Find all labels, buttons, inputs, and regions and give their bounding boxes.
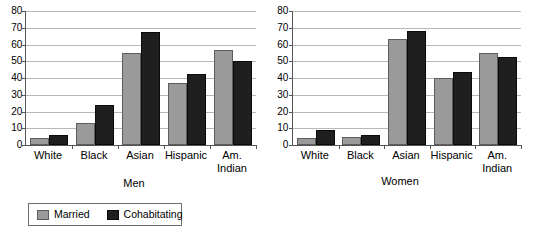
x-axis-label-asian: Asian (117, 149, 163, 162)
y-axis-tick-label: 50 (266, 56, 288, 66)
plot-area-men (25, 11, 256, 146)
x-axis-tick (256, 145, 257, 149)
x-axis-title-men: Men (0, 177, 268, 189)
y-axis-tick-label: 30 (0, 90, 22, 100)
y-axis-tick (22, 45, 26, 46)
bar-men-black-cohabitating (95, 105, 114, 145)
legend-entry-married: Married (37, 204, 90, 225)
plot-area-women (292, 11, 521, 146)
y-axis-tick (22, 28, 26, 29)
y-axis-labels-men: 01020304050607080 (0, 0, 22, 190)
y-axis-tick-label: 80 (0, 6, 22, 16)
bar-group (30, 11, 68, 145)
legend-swatch-married (37, 210, 49, 220)
y-axis-tick (289, 112, 293, 113)
y-axis-tick (22, 128, 26, 129)
bar-women-hispanic-cohabitating (453, 72, 472, 145)
bar-men-amindian-married (214, 50, 233, 145)
bar-group (122, 11, 160, 145)
y-axis-tick (289, 95, 293, 96)
bar-group (168, 11, 206, 145)
y-axis-tick (289, 61, 293, 62)
y-axis-tick-label: 60 (0, 40, 22, 50)
y-axis-tick (289, 45, 293, 46)
y-axis-tick (289, 128, 293, 129)
y-axis-tick-label: 0 (0, 140, 22, 150)
x-axis-tick (521, 145, 522, 149)
y-axis-labels-women: 01020304050607080 (266, 0, 288, 190)
x-axis-label-white: White (25, 149, 71, 162)
bar-women-hispanic-married (434, 78, 453, 145)
y-axis-tick (22, 78, 26, 79)
x-axis-label-asian: Asian (383, 149, 429, 162)
legend-swatch-cohabitating (107, 210, 119, 220)
bar-men-asian-cohabitating (141, 32, 160, 145)
bar-men-hispanic-married (168, 83, 187, 145)
y-axis-tick (22, 61, 26, 62)
bar-women-amindian-cohabitating (498, 57, 517, 145)
y-axis-tick (22, 112, 26, 113)
chart-panel-women: 01020304050607080 Women WhiteBlackAsianH… (266, 0, 534, 190)
y-axis-tick-label: 70 (266, 23, 288, 33)
bar-women-asian-married (388, 39, 407, 145)
y-axis-tick-label: 10 (0, 123, 22, 133)
bar-men-white-cohabitating (49, 135, 68, 145)
y-axis-tick-label: 30 (266, 90, 288, 100)
chart-legend: Married Cohabitating (28, 203, 182, 226)
x-axis-label-black: Black (71, 149, 117, 162)
x-axis-label-amindian: Am. Indian (474, 149, 520, 174)
y-axis-tick-label: 40 (0, 73, 22, 83)
bar-group (297, 11, 335, 145)
bar-women-black-married (342, 137, 361, 145)
bar-men-black-married (76, 123, 95, 145)
y-axis-tick-label: 10 (266, 123, 288, 133)
x-axis-label-white: White (292, 149, 338, 162)
y-axis-tick (22, 95, 26, 96)
y-axis-tick (289, 11, 293, 12)
x-axis-label-hispanic: Hispanic (429, 149, 475, 162)
bar-men-asian-married (122, 53, 141, 145)
y-axis-tick-label: 80 (266, 6, 288, 16)
bar-men-amindian-cohabitating (233, 61, 252, 145)
bar-women-white-cohabitating (316, 130, 335, 145)
y-axis-tick-label: 20 (266, 107, 288, 117)
y-axis-tick-label: 0 (266, 140, 288, 150)
bar-group (479, 11, 517, 145)
figure: 01020304050607080 Men WhiteBlackAsianHis… (0, 0, 537, 239)
y-axis-tick-label: 50 (0, 56, 22, 66)
bar-men-white-married (30, 138, 49, 145)
x-axis-title-women: Women (266, 175, 534, 187)
x-axis-label-hispanic: Hispanic (163, 149, 209, 162)
y-axis-tick (289, 78, 293, 79)
bar-men-hispanic-cohabitating (187, 74, 206, 145)
y-axis-tick-label: 20 (0, 107, 22, 117)
y-axis-tick (22, 11, 26, 12)
y-axis-tick (289, 28, 293, 29)
y-axis-tick (22, 145, 26, 146)
legend-label-cohabitating: Cohabitating (124, 209, 183, 220)
bar-group (214, 11, 252, 145)
legend-entry-cohabitating: Cohabitating (107, 204, 183, 225)
bar-group (434, 11, 472, 145)
x-axis-label-black: Black (338, 149, 384, 162)
legend-label-married: Married (54, 209, 90, 220)
x-axis-label-amindian: Am. Indian (209, 149, 255, 174)
y-axis-tick-label: 60 (266, 40, 288, 50)
bar-group (342, 11, 380, 145)
bar-group (76, 11, 114, 145)
chart-panel-men: 01020304050607080 Men WhiteBlackAsianHis… (0, 0, 268, 190)
bar-women-asian-cohabitating (407, 31, 426, 145)
y-axis-tick (289, 145, 293, 146)
bar-group (388, 11, 426, 145)
bar-women-black-cohabitating (361, 135, 380, 145)
bar-women-white-married (297, 138, 316, 145)
y-axis-tick-label: 40 (266, 73, 288, 83)
y-axis-tick-label: 70 (0, 23, 22, 33)
bar-women-amindian-married (479, 53, 498, 145)
